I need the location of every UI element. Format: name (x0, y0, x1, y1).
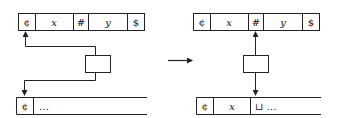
before-input-cell-1: x (51, 17, 57, 28)
before-input-cell-3: y (104, 17, 111, 28)
before-work-cell-0: ¢ (22, 101, 28, 112)
after-input-cell-1: x (226, 17, 232, 28)
after-input-cell-2: # (252, 17, 260, 28)
after-input-cell-3: y (279, 17, 286, 28)
after-work-cell-1: x (229, 101, 235, 112)
before-work-tape (17, 98, 148, 115)
tm-transition-diagram: ¢ x # y $ ¢ … ¢ x # y $ (0, 0, 337, 118)
before-input-head-arrow (26, 32, 96, 56)
after-control-box (244, 56, 269, 73)
before-work-head-arrow (25, 73, 96, 96)
before-input-cell-0: ¢ (24, 17, 30, 28)
before-input-cell-4: $ (133, 17, 139, 28)
before-work-cell-1: … (39, 101, 49, 112)
after-work-cell-0: ¢ (202, 101, 208, 112)
after-configuration: ¢ x # y $ ¢ x ⊔ … (194, 14, 322, 115)
after-work-cell-2: ⊔ … (255, 101, 277, 112)
before-control-box (86, 56, 111, 73)
after-input-cell-4: $ (308, 17, 314, 28)
before-input-cell-2: # (77, 17, 85, 28)
after-input-cell-0: ¢ (199, 17, 205, 28)
before-configuration: ¢ x # y $ ¢ … (17, 14, 148, 115)
